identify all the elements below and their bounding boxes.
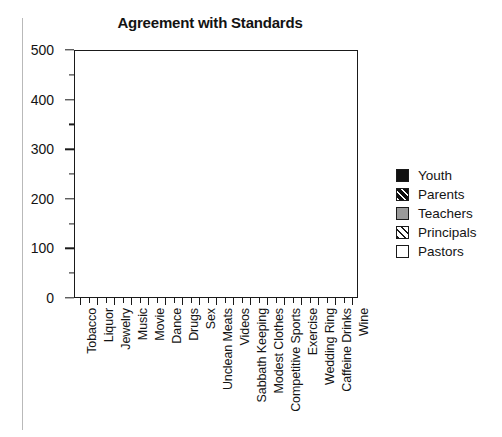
legend-swatch-parents	[396, 188, 409, 201]
x-tick	[301, 298, 302, 305]
y-tick-major	[65, 297, 74, 298]
x-tick	[80, 298, 81, 305]
legend-item-principals[interactable]: Principals	[396, 223, 500, 242]
x-axis-label: Unclean Meats	[221, 308, 235, 390]
x-tick-minor	[259, 298, 260, 303]
legend-item-parents[interactable]: Parents	[396, 185, 500, 204]
y-tick-major	[65, 148, 74, 149]
chart-legend: YouthParentsTeachersPrincipalsPastors	[396, 166, 500, 261]
x-axis-label: Wedding Ring	[323, 308, 337, 385]
x-tick	[284, 298, 285, 305]
plot-area	[74, 50, 358, 298]
x-axis-label: Drugs	[187, 308, 201, 341]
y-tick-label: 100	[31, 240, 54, 256]
y-tick-label: 300	[31, 141, 54, 157]
x-axis-label: Sex	[204, 308, 218, 329]
legend-item-pastors[interactable]: Pastors	[396, 242, 500, 261]
legend-item-teachers[interactable]: Teachers	[396, 204, 500, 223]
x-tick	[216, 298, 217, 305]
x-tick-minor	[106, 298, 107, 303]
y-axis: 0100200300400500	[20, 50, 74, 298]
x-tick	[182, 298, 183, 305]
legend-label: Teachers	[418, 206, 473, 221]
x-axis-label: Liquor	[102, 308, 116, 342]
x-axis-label: Jewelry	[119, 308, 133, 350]
x-tick-minor	[242, 298, 243, 303]
x-axis-label: Music	[136, 308, 150, 340]
x-axis-label: Exercise	[306, 308, 320, 355]
x-axis-label: Sabbath Keeping	[255, 308, 269, 402]
legend-label: Youth	[418, 168, 452, 183]
legend-swatch-pastors	[396, 245, 409, 258]
y-tick-label: 400	[31, 92, 54, 108]
x-axis-label: Wine	[357, 308, 371, 336]
legend-label: Principals	[418, 225, 477, 240]
x-tick-minor	[344, 298, 345, 303]
x-tick	[233, 298, 234, 305]
x-tick-minor	[89, 298, 90, 303]
x-tick-minor	[293, 298, 294, 303]
legend-label: Pastors	[418, 244, 464, 259]
x-tick	[131, 298, 132, 305]
x-axis-ticks	[74, 298, 358, 307]
x-tick-minor	[191, 298, 192, 303]
y-tick-major	[65, 49, 74, 50]
y-tick-label: 200	[31, 191, 54, 207]
y-tick-label: 0	[46, 290, 54, 306]
plot-frame	[74, 50, 358, 298]
legend-item-youth[interactable]: Youth	[396, 166, 500, 185]
x-axis-label: Movie	[153, 308, 167, 341]
y-tick-major	[65, 198, 74, 199]
x-tick	[250, 298, 251, 305]
x-axis-labels: TobaccoLiquorJewelryMusicMovieDanceDrugs…	[74, 308, 358, 433]
x-tick-minor	[157, 298, 158, 303]
x-tick-minor	[174, 298, 175, 303]
x-axis-label: Modest Clothes	[272, 308, 286, 393]
legend-swatch-teachers	[396, 207, 409, 220]
x-tick	[97, 298, 98, 305]
x-axis-label: Dance	[170, 308, 184, 344]
legend-swatch-youth	[396, 169, 409, 182]
x-tick-minor	[276, 298, 277, 303]
x-tick	[148, 298, 149, 305]
chart-title: Agreement with Standards	[60, 14, 360, 31]
x-tick-minor	[208, 298, 209, 303]
x-tick	[318, 298, 319, 305]
x-tick	[335, 298, 336, 305]
legend-label: Parents	[418, 187, 465, 202]
x-tick-minor	[140, 298, 141, 303]
x-axis-label: Caffeine Drinks	[340, 308, 354, 392]
x-tick-minor	[123, 298, 124, 303]
x-tick	[267, 298, 268, 305]
x-tick-minor	[327, 298, 328, 303]
y-tick-major	[65, 248, 74, 249]
x-axis-label: Competitive Sports	[289, 308, 303, 412]
x-axis-label: Tobacco	[85, 308, 99, 354]
x-tick-minor	[225, 298, 226, 303]
x-tick	[199, 298, 200, 305]
x-tick	[114, 298, 115, 305]
x-axis-label: Videos	[238, 308, 252, 345]
x-tick	[165, 298, 166, 305]
y-tick-major	[65, 99, 74, 100]
legend-swatch-principals	[396, 226, 409, 239]
chart-page: Agreement with Standards 010020030040050…	[0, 0, 502, 437]
x-tick	[352, 298, 353, 305]
y-tick-label: 500	[31, 42, 54, 58]
x-tick-minor	[310, 298, 311, 303]
